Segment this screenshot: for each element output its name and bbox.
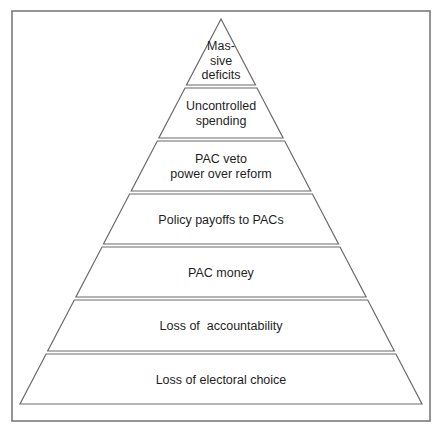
pyramid-level-label: Uncontrolled [186, 99, 256, 113]
pyramid-level-4: Policy payoffs to PACs [104, 194, 339, 244]
pyramid-level-5: PAC money [76, 247, 366, 297]
pyramid-level-label: power over reform [170, 167, 271, 181]
pyramid-level-label: Mas- [207, 39, 235, 53]
pyramid-level-2: Uncontrolledspending [159, 88, 283, 138]
pyramid-level-label: Loss of accountability [160, 319, 284, 333]
pyramid-levels: Mas-sivedeficitsUncontrolledspendingPAC … [20, 19, 422, 404]
pyramid-level-label: Loss of electoral choice [156, 373, 287, 387]
pyramid-level-label: Policy payoffs to PACs [158, 213, 283, 227]
pyramid-level-label: spending [196, 114, 247, 128]
pyramid-level-label: PAC money [188, 266, 255, 280]
pyramid-level-7: Loss of electoral choice [20, 354, 422, 404]
pyramid-level-3: PAC vetopower over reform [131, 141, 311, 191]
pyramid-level-label: sive [210, 54, 232, 68]
pyramid-diagram: Mas-sivedeficitsUncontrolledspendingPAC … [0, 0, 437, 427]
pyramid-level-label: deficits [202, 68, 241, 82]
pyramid-level-6: Loss of accountability [48, 300, 395, 351]
pyramid-level-label: PAC veto [195, 152, 247, 166]
pyramid-level-1: Mas-sivedeficits [187, 19, 256, 85]
